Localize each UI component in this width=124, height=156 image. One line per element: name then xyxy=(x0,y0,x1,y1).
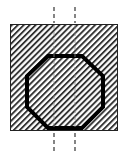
cross-section-diagram xyxy=(0,0,124,156)
